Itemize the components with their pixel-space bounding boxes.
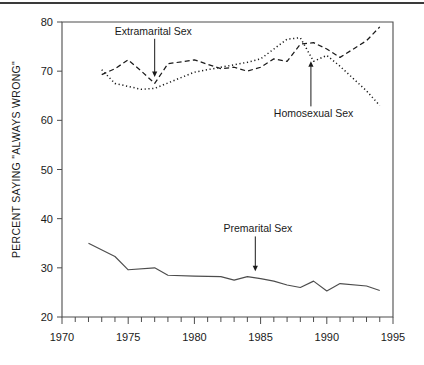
annotation-arrow-head-extramarital-sex — [152, 72, 157, 78]
annotations-group: Extramarital SexHomosexual SexPremarital… — [115, 25, 354, 271]
series-line-premarital-sex — [88, 243, 379, 291]
series-group — [88, 27, 379, 291]
y-tick-label-20: 20 — [41, 311, 53, 323]
plot-frame — [62, 22, 393, 317]
x-tick-label-1970: 1970 — [50, 331, 74, 343]
y-tick-label-30: 30 — [41, 262, 53, 274]
series-line-homosexual-sex — [102, 38, 380, 106]
y-tick-label-70: 70 — [41, 65, 53, 77]
line-chart-svg: 20304050607080 197019751980198519901995 … — [0, 0, 424, 365]
x-axis-ticks — [62, 317, 393, 324]
y-tick-label-50: 50 — [41, 164, 53, 176]
annotation-arrow-head-premarital-sex — [253, 266, 258, 272]
x-tick-label-1990: 1990 — [315, 331, 339, 343]
axes-group — [62, 22, 393, 317]
x-tick-label-1985: 1985 — [248, 331, 272, 343]
annotation-label-premarital-sex: Premarital Sex — [224, 222, 294, 234]
chart-figure: 20304050607080 197019751980198519901995 … — [0, 0, 424, 365]
y-axis-title: PERCENT SAYING "ALWAYS WRONG" — [10, 61, 22, 258]
x-axis-tick-labels: 197019751980198519901995 — [50, 331, 405, 343]
y-tick-label-80: 80 — [41, 16, 53, 28]
x-tick-label-1995: 1995 — [381, 331, 405, 343]
y-axis-ticks — [57, 22, 62, 317]
annotation-label-extramarital-sex: Extramarital Sex — [115, 25, 193, 37]
x-tick-label-1975: 1975 — [116, 331, 140, 343]
y-tick-label-60: 60 — [41, 114, 53, 126]
x-tick-label-1980: 1980 — [182, 331, 206, 343]
y-axis-tick-labels: 20304050607080 — [41, 16, 53, 323]
y-tick-label-40: 40 — [41, 213, 53, 225]
annotation-arrow-head-homosexual-sex — [308, 61, 313, 67]
annotation-label-homosexual-sex: Homosexual Sex — [274, 107, 354, 119]
